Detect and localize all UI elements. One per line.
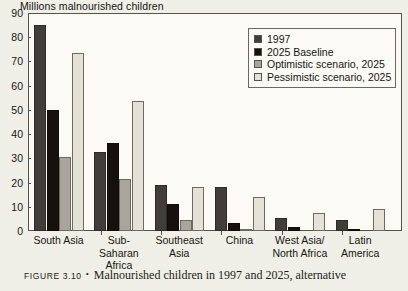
x-axis-label-line: Sub-Saharan <box>89 234 149 259</box>
y-axis-tick-label: 80 <box>11 31 23 43</box>
y-axis-tick-label: 0 <box>17 225 23 237</box>
legend-label: Optimistic scenario, 2025 <box>267 58 385 70</box>
legend-item: 1997 <box>254 33 390 46</box>
y-axis-tick-label: 20 <box>11 177 23 189</box>
bar <box>72 53 84 231</box>
figure-container: Millions malnourished children 010203040… <box>0 0 408 291</box>
chart-axis-title: Millions malnourished children <box>20 0 164 12</box>
x-axis-labels: South AsiaSub-SaharanAfricaSoutheastAsia… <box>28 234 402 264</box>
legend-item: Pessimistic scenario, 2025 <box>254 71 390 84</box>
bar <box>155 185 167 231</box>
caption-bullet: • <box>86 269 89 279</box>
legend-swatch-2025-baseline <box>254 48 262 56</box>
x-axis-label-line: Asia <box>149 247 209 260</box>
bar <box>215 187 227 231</box>
bar <box>34 25 46 231</box>
legend-label: 1997 <box>267 33 290 45</box>
x-axis-label-line: South Asia <box>28 234 88 247</box>
y-axis-tick-label: 30 <box>11 152 23 164</box>
legend-swatch-pessimistic <box>254 73 262 81</box>
bar <box>348 229 360 231</box>
x-axis-label: West Asia/North Africa <box>270 234 330 259</box>
x-axis-label-line: North Africa <box>270 247 330 260</box>
figure-caption: Figure 3.10•Malnourished children in 199… <box>24 268 404 283</box>
y-axis: 0102030405060708090 <box>0 13 26 231</box>
bar <box>313 213 325 231</box>
y-axis-tick-label: 60 <box>11 80 23 92</box>
y-axis-tick-label: 90 <box>11 7 23 19</box>
bar <box>180 220 192 231</box>
x-axis-label: LatinAmerica <box>330 234 390 259</box>
bar <box>192 187 204 231</box>
x-axis-label: China <box>209 234 269 247</box>
bar-group <box>155 13 208 231</box>
bar <box>59 157 71 231</box>
y-axis-tick-label: 70 <box>11 55 23 67</box>
figure-number: Figure 3.10 <box>24 271 82 281</box>
x-axis-label-line: West Asia/ <box>270 234 330 247</box>
legend-swatch-1997 <box>254 35 262 43</box>
bar <box>336 220 348 231</box>
bar <box>228 223 240 231</box>
bar <box>94 152 106 231</box>
legend: 1997 2025 Baseline Optimistic scenario, … <box>248 28 396 88</box>
caption-text: Malnourished children in 1997 and 2025, … <box>94 268 346 282</box>
legend-item: Optimistic scenario, 2025 <box>254 58 390 71</box>
y-axis-tick-label: 50 <box>11 104 23 116</box>
bar <box>107 143 119 231</box>
x-axis-label: SoutheastAsia <box>149 234 209 259</box>
legend-label: Pessimistic scenario, 2025 <box>267 71 391 83</box>
bar <box>253 197 265 231</box>
x-axis-label-line: Latin <box>330 234 390 247</box>
x-axis-label-line: China <box>209 234 269 247</box>
bar <box>373 209 385 231</box>
bar <box>288 227 300 231</box>
bar <box>240 229 252 231</box>
legend-swatch-optimistic <box>254 60 262 68</box>
x-axis-label: Sub-SaharanAfrica <box>89 234 149 272</box>
y-axis-tick-label: 40 <box>11 128 23 140</box>
bar <box>167 204 179 231</box>
legend-item: 2025 Baseline <box>254 46 390 59</box>
bar-group <box>34 13 87 231</box>
bar-group <box>94 13 147 231</box>
x-axis-label-line: America <box>330 247 390 260</box>
legend-label: 2025 Baseline <box>267 46 334 58</box>
bar <box>275 218 287 231</box>
bar <box>47 110 59 231</box>
x-axis-label: South Asia <box>28 234 88 247</box>
y-axis-tick-label: 10 <box>11 201 23 213</box>
bar <box>132 101 144 231</box>
bar <box>119 179 131 231</box>
x-axis-label-line: Southeast <box>149 234 209 247</box>
